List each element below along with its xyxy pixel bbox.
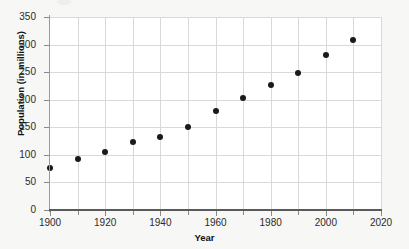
gridline-vertical: [105, 17, 106, 210]
y-axis-title: Population (in millions): [15, 9, 26, 159]
data-point: [350, 37, 356, 43]
x-axis-tick: [160, 211, 161, 216]
x-axis-tick-minor: [298, 211, 299, 215]
y-axis-tick: [44, 45, 49, 46]
chart-figure: Population (in millions) Year 0501001502…: [0, 0, 409, 249]
x-axis-tick-minor: [133, 211, 134, 215]
x-axis-tick: [381, 211, 382, 216]
x-axis-tick: [326, 211, 327, 216]
y-axis-tick: [44, 72, 49, 73]
gridline-vertical-minor: [133, 17, 134, 210]
gridline-vertical: [326, 17, 327, 210]
gridline-vertical-minor: [298, 17, 299, 210]
y-axis-tick: [44, 100, 49, 101]
y-axis-tick: [44, 182, 49, 183]
y-axis-tick-label: 250: [8, 67, 36, 77]
gridline-vertical-minor: [243, 17, 244, 210]
y-axis-tick-label: 150: [8, 122, 36, 132]
y-axis-tick-label: 100: [8, 150, 36, 160]
y-axis-tick: [44, 127, 49, 128]
data-point: [268, 82, 274, 88]
x-axis-tick-label: 1920: [85, 218, 125, 228]
gridline-vertical-minor: [353, 17, 354, 210]
y-axis-tick: [44, 17, 49, 18]
data-point: [213, 108, 219, 114]
data-point: [130, 139, 136, 145]
data-point: [323, 52, 329, 58]
gridline-vertical-minor: [188, 17, 189, 210]
gridline-vertical: [381, 17, 382, 210]
x-axis-tick-label: 1900: [30, 218, 70, 228]
y-axis-line: [49, 15, 50, 212]
y-axis-tick-label: 0: [8, 205, 36, 215]
x-axis-tick-label: 2000: [306, 218, 346, 228]
x-axis-tick-minor: [243, 211, 244, 215]
y-axis-tick-label: 200: [8, 95, 36, 105]
x-axis-tick-label: 1940: [140, 218, 180, 228]
x-axis-tick-minor: [188, 211, 189, 215]
x-axis-tick-minor: [353, 211, 354, 215]
x-axis-tick: [50, 211, 51, 216]
x-axis-tick: [105, 211, 106, 216]
y-axis-tick: [44, 210, 49, 211]
gridline-vertical: [271, 17, 272, 210]
gridline-vertical: [160, 17, 161, 210]
data-point: [47, 165, 53, 171]
y-axis-tick-label: 50: [8, 177, 36, 187]
x-axis-tick: [271, 211, 272, 216]
x-axis-tick-label: 1960: [196, 218, 236, 228]
data-point: [102, 149, 108, 155]
plot-area: [50, 17, 381, 210]
x-axis-tick-label: 2020: [361, 218, 401, 228]
x-axis-tick: [216, 211, 217, 216]
x-axis-tick-minor: [78, 211, 79, 215]
data-point: [75, 156, 81, 162]
cropped-title-artifact: [57, 0, 71, 5]
gridline-vertical-minor: [78, 17, 79, 210]
y-axis-tick: [44, 155, 49, 156]
y-axis-tick-label: 350: [8, 12, 36, 22]
y-axis-tick-label: 300: [8, 40, 36, 50]
data-point: [185, 124, 191, 130]
data-point: [157, 134, 163, 140]
x-axis-tick-label: 1980: [251, 218, 291, 228]
x-axis-title: Year: [0, 232, 409, 243]
data-point: [295, 70, 301, 76]
